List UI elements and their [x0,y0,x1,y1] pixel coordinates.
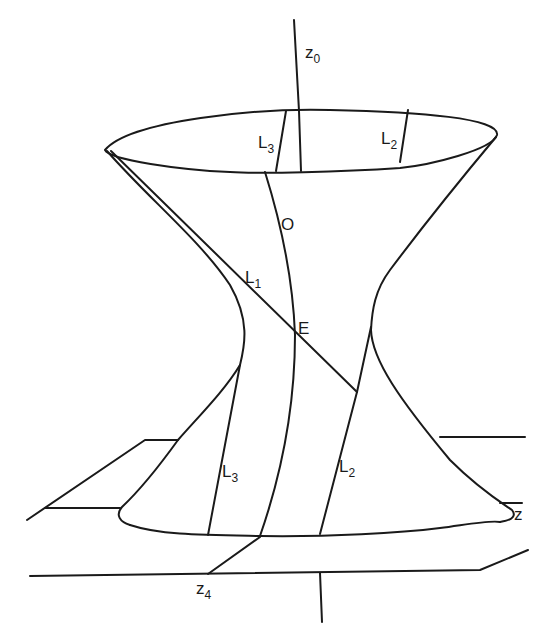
right-silhouette [371,137,514,522]
label-l3-bottom: L3 [222,462,238,485]
label-l2-top: L2 [381,129,397,152]
ruling-l3-bottom [208,365,240,535]
z4-line [208,537,260,574]
bottom-ellipse [130,521,500,536]
ruling-l3-top [276,111,286,171]
axis-z0-top [294,20,299,111]
label-z: z [514,505,523,524]
axis-inside-rim [299,111,301,171]
label-l3-top: L3 [258,133,274,156]
ruling-l2-bottom [320,327,371,534]
hyperboloid-diagram: z0 L3 L2 O L1 E L3 L2 z z4 [0,0,541,630]
label-o: O [281,215,294,234]
label-l1: L1 [245,268,261,291]
label-z0: z0 [305,43,321,66]
label-l2-bottom: L2 [339,457,355,480]
ruling-l2-top [400,110,408,162]
axis-bottom [320,573,322,622]
label-e: E [298,319,309,338]
bottom-plane [30,550,528,576]
label-z4: z4 [196,579,212,602]
ruling-l1 [111,151,357,392]
